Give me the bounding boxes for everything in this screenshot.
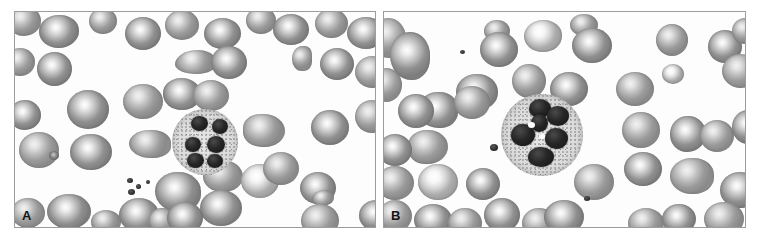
red-blood-cell xyxy=(39,15,79,48)
red-blood-cell xyxy=(662,204,696,227)
red-blood-cell xyxy=(414,204,452,227)
nuclear-lobe xyxy=(207,136,225,153)
red-blood-cell xyxy=(125,17,161,50)
nuclear-lobe xyxy=(528,147,554,167)
nuclear-lobe xyxy=(185,137,201,152)
cytoplasmic-vacuole xyxy=(539,134,545,139)
nuclear-lobe xyxy=(207,154,223,168)
red-blood-cell xyxy=(167,202,203,227)
red-blood-cell xyxy=(15,48,35,76)
red-blood-cell xyxy=(37,52,72,86)
panel-b: B xyxy=(383,11,746,228)
panel-b-smear-field xyxy=(384,12,745,227)
red-blood-cell xyxy=(320,48,354,80)
nuclear-lobe xyxy=(547,106,569,126)
red-blood-cell xyxy=(70,134,112,170)
panel-a-label: A xyxy=(22,209,32,222)
red-blood-cell xyxy=(512,64,546,98)
cytoplasmic-vacuole xyxy=(528,122,535,128)
platelet xyxy=(490,144,498,151)
red-blood-cell xyxy=(263,152,299,185)
red-blood-cell xyxy=(67,90,109,129)
red-blood-cell xyxy=(670,158,714,194)
red-blood-cell xyxy=(165,12,199,40)
red-blood-cell xyxy=(722,54,745,88)
red-blood-cell xyxy=(246,12,276,34)
red-blood-cell xyxy=(355,100,375,133)
panel-a-smear-field xyxy=(15,12,375,227)
red-blood-cell xyxy=(622,112,660,148)
red-blood-cell xyxy=(301,204,339,227)
red-blood-cell xyxy=(91,210,121,227)
red-blood-cell xyxy=(662,64,684,84)
red-blood-cell xyxy=(292,46,312,71)
red-blood-cell xyxy=(628,208,664,227)
red-blood-cell-fragment xyxy=(49,151,59,160)
red-blood-cell xyxy=(193,80,229,111)
red-blood-cell xyxy=(359,200,375,227)
red-blood-cell xyxy=(732,110,745,144)
red-blood-cell xyxy=(204,18,241,49)
red-blood-cell xyxy=(572,28,612,63)
blood-smear-figure: A xyxy=(0,0,758,240)
panel-a: A xyxy=(14,11,376,228)
red-blood-cell xyxy=(624,152,662,186)
red-blood-cell xyxy=(454,86,490,119)
platelet xyxy=(146,180,150,184)
red-blood-cell xyxy=(480,32,518,67)
nuclear-lobe xyxy=(545,128,568,149)
red-blood-cell xyxy=(448,208,482,227)
nuclear-lobe xyxy=(187,153,204,168)
platelet xyxy=(128,189,135,195)
platelet xyxy=(136,184,141,189)
red-blood-cell xyxy=(273,14,309,45)
red-blood-cell xyxy=(89,12,117,34)
red-blood-cell xyxy=(15,12,41,36)
red-blood-cell xyxy=(200,190,242,226)
red-blood-cell xyxy=(524,20,562,52)
red-blood-cell xyxy=(656,24,688,56)
red-blood-cell xyxy=(398,94,434,128)
red-blood-cell xyxy=(384,166,414,200)
red-blood-cell xyxy=(574,164,614,200)
red-blood-cell xyxy=(484,198,520,227)
platelet xyxy=(584,196,590,201)
red-blood-cell xyxy=(211,46,247,79)
red-blood-cell xyxy=(700,120,734,152)
red-blood-cell xyxy=(616,72,654,106)
red-blood-cell xyxy=(347,17,375,49)
platelet xyxy=(127,178,133,183)
red-blood-cell xyxy=(19,132,59,168)
red-blood-cell xyxy=(315,12,348,38)
red-blood-cell xyxy=(15,100,41,130)
nuclear-lobe xyxy=(212,119,228,134)
nuclear-lobe xyxy=(191,116,208,131)
red-blood-cell xyxy=(243,114,285,147)
red-blood-cell xyxy=(408,130,448,164)
red-blood-cell xyxy=(123,84,163,119)
red-blood-cell xyxy=(466,168,500,200)
hypersegmented-neutrophil xyxy=(501,94,583,176)
red-blood-cell xyxy=(129,130,171,158)
red-blood-cell xyxy=(311,110,349,145)
red-blood-cell xyxy=(47,194,91,227)
platelet xyxy=(460,50,465,54)
red-blood-cell xyxy=(418,164,458,200)
red-blood-cell xyxy=(544,200,584,227)
red-blood-cell xyxy=(384,134,412,166)
hypersegmented-neutrophil xyxy=(172,109,238,175)
panel-b-label: B xyxy=(391,209,401,222)
red-blood-cell xyxy=(355,56,375,88)
